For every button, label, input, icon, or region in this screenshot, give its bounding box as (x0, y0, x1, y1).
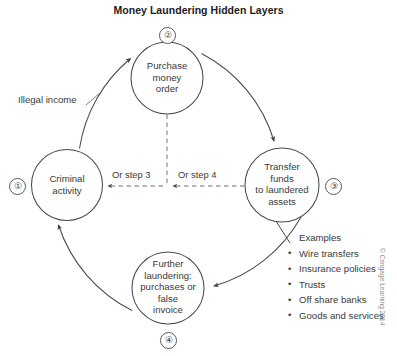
node-badge-4: ④ (160, 332, 177, 349)
node-circle-purchase-money-order (131, 42, 203, 114)
arrow-purchase-to-transfer (202, 54, 275, 142)
examples-block: Examples Wire transfers Insurance polici… (288, 230, 384, 324)
examples-list: Wire transfers Insurance policies Trusts… (288, 246, 384, 324)
node-badge-2: ② (159, 27, 176, 44)
list-item: Goods and services (288, 308, 384, 324)
node-badge-1: ① (9, 178, 26, 195)
node-circle-criminal-activity (32, 150, 103, 221)
node-circle-transfer-funds (245, 148, 319, 222)
edge-label-or-step-4: Or step 4 (176, 169, 219, 180)
list-item: Trusts (288, 277, 384, 293)
edge-label-illegal-income: Illegal income (18, 94, 77, 105)
list-item: Insurance policies (288, 261, 384, 277)
examples-heading: Examples (299, 230, 384, 246)
node-badge-3: ③ (325, 178, 342, 195)
diagram-figure: Money Laundering Hidden Layers (0, 0, 397, 356)
leader-line-illegal-income (86, 92, 101, 105)
list-item: Wire transfers (288, 246, 384, 262)
arrow-laundering-to-criminal (59, 225, 133, 311)
edge-label-or-step-3: Or step 3 (110, 169, 153, 180)
copyright-notice: © Cengage Learning 2014 (379, 248, 386, 352)
node-circle-further-laundering (132, 252, 204, 324)
list-item: Off share banks (288, 292, 384, 308)
